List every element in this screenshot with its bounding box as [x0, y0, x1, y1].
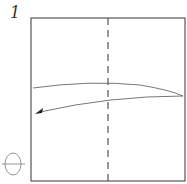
- fold-diagram: [0, 0, 187, 184]
- turn-over-icon: [2, 153, 25, 175]
